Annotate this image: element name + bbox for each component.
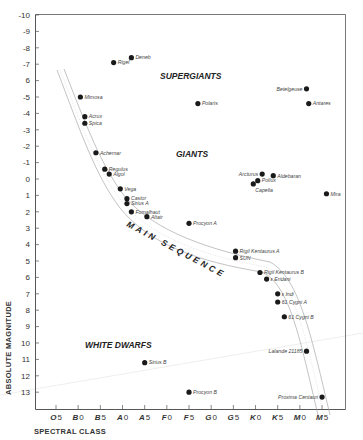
star-label: Rigil Kentaurus B — [264, 269, 305, 275]
star-point: Altair — [144, 214, 163, 220]
star-label: Rigil Kentaurus A — [240, 248, 280, 254]
y-tick-label: -7 — [23, 60, 31, 69]
star-dot-icon — [102, 167, 107, 172]
star-point: Procyon B — [186, 389, 217, 395]
x-tick-label: B5 — [95, 413, 107, 422]
y-tick-label: 9 — [26, 322, 31, 331]
star-point: Polaris — [195, 100, 218, 106]
x-tick-label: F0 — [162, 413, 173, 422]
star-label: SUN — [240, 255, 251, 261]
star-label: Mira — [330, 191, 340, 197]
star-point: Algol — [107, 171, 126, 177]
y-tick-label: -8 — [23, 44, 31, 53]
star-dot-icon — [142, 360, 147, 365]
star-dot-icon — [82, 121, 87, 126]
star-label: Procyon B — [193, 389, 217, 395]
star-point: Arcturus — [238, 171, 265, 177]
star-label: Procyon A — [193, 220, 217, 226]
scan-artifact — [0, 333, 363, 395]
y-tick-label: -3 — [23, 126, 31, 135]
star-point: SUN — [233, 255, 251, 261]
y-tick-label: 6 — [26, 76, 31, 85]
star-point: Proxima Centauri — [278, 394, 325, 400]
star-label: Aldebaran — [276, 173, 301, 179]
star-point: Deneb — [129, 54, 151, 60]
x-tick-label: A0 — [116, 413, 129, 422]
star-point: Vega — [118, 186, 137, 192]
y-tick-label: 12 — [21, 372, 30, 381]
y-tick-label: -10 — [18, 11, 30, 20]
star-dot-icon — [251, 181, 256, 186]
y-tick-label: 0 — [26, 175, 31, 184]
x-tick-label: O5 — [50, 413, 62, 422]
x-tick-label: G5 — [228, 413, 240, 422]
star-dot-icon — [129, 55, 134, 60]
star-label: Pollux — [262, 177, 277, 183]
y-tick-label: 3 — [26, 224, 31, 233]
star-dot-icon — [275, 291, 280, 296]
star-label: Mimosa — [84, 94, 102, 100]
star-point: Rigil Kentaurus B — [257, 269, 304, 275]
star-point: Rigel — [111, 59, 130, 65]
y-tick-label: 13 — [21, 388, 30, 397]
x-tick-label: F5 — [184, 413, 195, 422]
star-dot-icon — [186, 390, 191, 395]
star-dot-icon — [82, 114, 87, 119]
star-dot-icon — [93, 150, 98, 155]
star-dot-icon — [144, 214, 149, 219]
star-dot-icon — [124, 196, 129, 201]
star-label: Spica — [89, 120, 102, 126]
star-dot-icon — [107, 171, 112, 176]
star-dot-icon — [78, 94, 83, 99]
star-dot-icon — [275, 299, 280, 304]
star-label: Polaris — [202, 100, 218, 106]
star-label: Betelgeuse — [277, 86, 303, 92]
y-tick-label: 8 — [26, 306, 31, 315]
star-dot-icon — [304, 86, 309, 91]
y-tick-label: 4 — [26, 240, 31, 249]
region-label-giants: GIANTS — [176, 149, 208, 159]
star-dot-icon — [255, 178, 260, 183]
star-point: Rigil Kentaurus A — [233, 248, 280, 254]
star-label: Antares — [312, 100, 331, 106]
star-dot-icon — [111, 60, 116, 65]
star-dot-icon — [118, 186, 123, 191]
star-point: Sirius B — [142, 359, 167, 365]
star-label: Rigel — [118, 59, 131, 65]
star-label: Altair — [150, 214, 163, 220]
star-dot-icon — [124, 201, 129, 206]
star-dot-icon — [306, 101, 311, 106]
star-point: Spica — [82, 120, 102, 126]
region-label-main-sequence: MAIN SEQUENCE — [125, 219, 228, 280]
star-label: Sirius A — [131, 200, 149, 206]
star-dot-icon — [304, 349, 309, 354]
star-dot-icon — [260, 171, 265, 176]
star-point: ε Indi — [275, 291, 295, 297]
star-point: Mira — [324, 191, 341, 197]
star-dot-icon — [195, 101, 200, 106]
star-dot-icon — [264, 276, 269, 281]
star-dot-icon — [233, 255, 238, 260]
star-point: Betelgeuse — [277, 86, 310, 92]
x-tick-label: G0 — [205, 413, 217, 422]
star-point: Antares — [306, 100, 331, 106]
star-label: Achernar — [99, 150, 121, 156]
y-tick-label: 1 — [26, 191, 31, 200]
y-tick-label: -4 — [23, 109, 31, 118]
star-point: 61 Cygni B — [282, 314, 315, 320]
star-label: Capella — [255, 187, 273, 193]
star-point: Procyon A — [186, 220, 217, 226]
x-axis: O5B0B5A0A5F0F5G0G5K0K5M0M5 — [50, 405, 328, 422]
star-dot-icon — [129, 209, 134, 214]
star-label: ε Eridani — [271, 276, 292, 282]
star-label: Acrux — [88, 113, 103, 119]
x-tick-label: K0 — [250, 413, 262, 422]
star-label: Algol — [112, 171, 125, 177]
x-tick-label: A5 — [138, 413, 151, 422]
star-point: Acrux — [82, 113, 102, 119]
y-tick-label: 10 — [21, 339, 30, 348]
star-point: Mimosa — [78, 94, 103, 100]
star-point: Sirius A — [124, 200, 149, 206]
x-tick-label: K5 — [272, 413, 284, 422]
x-tick-label: B0 — [73, 413, 85, 422]
